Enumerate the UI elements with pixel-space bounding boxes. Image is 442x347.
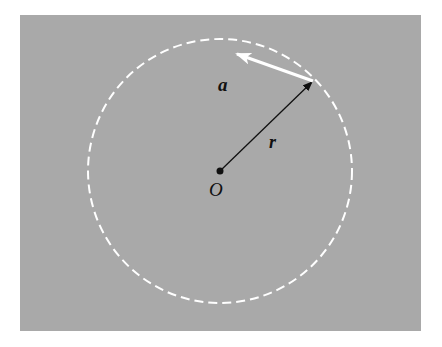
origin-label: O bbox=[209, 179, 223, 200]
origin-point bbox=[217, 168, 224, 175]
circular-motion-diagram: a r O bbox=[0, 0, 442, 347]
acceleration-label: a bbox=[218, 74, 228, 95]
radius-label: r bbox=[269, 132, 277, 152]
